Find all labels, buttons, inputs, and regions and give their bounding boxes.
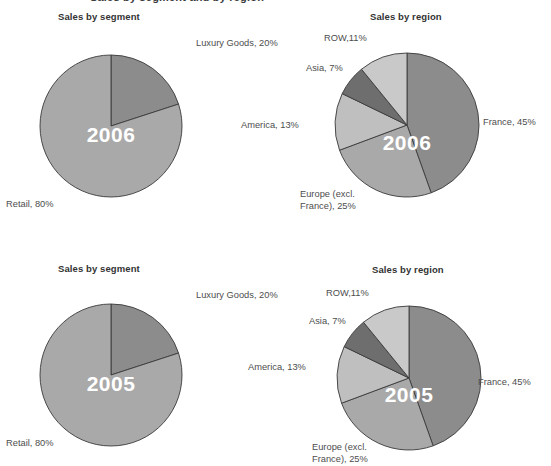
pie-slice-label: America, 13% <box>248 362 306 374</box>
pie-slice-label: Asia, 7% <box>306 63 343 75</box>
pie-chart-region-2006 <box>334 52 480 198</box>
pie-slice-label: France, 45% <box>478 377 531 389</box>
figure-header-cropped: Sales by segment and by region <box>90 0 470 3</box>
chart-title: Sales by region <box>370 11 442 22</box>
pie-slice-label: Luxury Goods, 20% <box>196 290 278 302</box>
pie-chart-region-2005 <box>336 305 482 451</box>
pie-slice-label: ROW,11% <box>324 33 367 45</box>
pie-slice-label: Luxury Goods, 20% <box>196 38 278 50</box>
pie-chart-figure: Sales by segment and by region Sales by … <box>0 0 551 466</box>
pie-chart-segment-2005 <box>39 303 183 447</box>
pie-chart-segment-2006 <box>39 54 183 198</box>
pie-slice-label: America, 13% <box>241 120 299 132</box>
chart-title: Sales by region <box>372 264 444 275</box>
pie-slice-label: Asia, 7% <box>309 316 346 328</box>
pie-slice-label: Europe (excl. France), 25% <box>300 189 356 212</box>
pie-slice-label: France, 45% <box>483 117 536 129</box>
chart-title: Sales by segment <box>58 263 140 274</box>
chart-title: Sales by segment <box>58 11 140 22</box>
pie-slice-label: Retail, 80% <box>6 199 54 211</box>
pie-slice-label: Europe (excl. France), 25% <box>312 442 368 465</box>
pie-slice-label: ROW,11% <box>326 288 369 300</box>
pie-slice-label: Retail, 80% <box>6 438 54 450</box>
